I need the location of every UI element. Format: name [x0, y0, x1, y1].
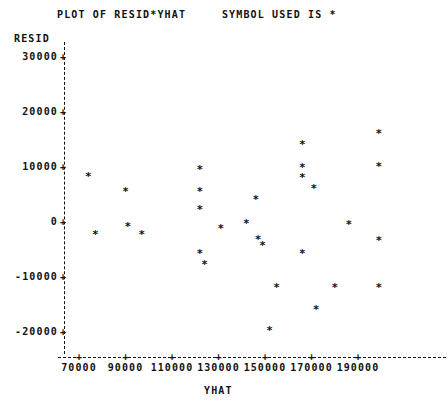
y-tick-mark: +	[60, 52, 66, 62]
data-point: *	[376, 234, 383, 245]
data-point: *	[252, 193, 259, 204]
x-tick-label: 110000	[151, 363, 194, 373]
data-point: *	[376, 160, 383, 171]
x-tick-mark: +	[76, 352, 82, 362]
y-tick-mark: +	[60, 107, 66, 117]
x-tick-label: 70000	[61, 363, 97, 373]
data-point: *	[313, 303, 320, 314]
data-point: *	[376, 127, 383, 138]
data-point: *	[259, 240, 266, 251]
y-tick-label: 30000	[2, 52, 58, 62]
x-tick-mark: +	[215, 352, 221, 362]
data-point: *	[197, 164, 204, 175]
y-tick-mark: +	[60, 217, 66, 227]
y-tick-mark: +	[60, 162, 66, 172]
y-tick-label: -10000	[2, 272, 58, 282]
data-point: *	[92, 229, 99, 240]
x-axis-title: YHAT	[204, 385, 233, 396]
data-point: *	[125, 221, 132, 232]
data-point: *	[299, 138, 306, 149]
x-tick-label: 170000	[290, 363, 333, 373]
y-tick-mark: +	[60, 327, 66, 337]
data-point: *	[331, 281, 338, 292]
x-tick-label: 90000	[108, 363, 144, 373]
y-tick-mark: +	[60, 272, 66, 282]
data-point: *	[299, 171, 306, 182]
data-point: *	[218, 222, 225, 233]
x-tick-mark: +	[169, 352, 175, 362]
data-point: *	[85, 170, 92, 181]
data-point: *	[311, 182, 318, 193]
x-tick-mark: +	[122, 352, 128, 362]
page-title: PLOT OF RESID*YHAT SYMBOL USED IS *	[57, 9, 337, 20]
data-point: *	[243, 218, 250, 229]
data-point: *	[201, 258, 208, 269]
scatter-plot: PLOT OF RESID*YHAT SYMBOL USED IS * RESI…	[0, 0, 448, 409]
data-point: *	[273, 281, 280, 292]
data-point: *	[138, 229, 145, 240]
data-point: *	[197, 186, 204, 197]
x-tick-mark: +	[308, 352, 314, 362]
x-tick-mark: +	[262, 352, 268, 362]
y-tick-label: 0	[2, 217, 58, 227]
data-point: *	[122, 186, 129, 197]
data-point: *	[299, 247, 306, 258]
y-tick-label: 10000	[2, 162, 58, 172]
x-axis-line	[58, 357, 446, 358]
data-point: *	[376, 281, 383, 292]
y-axis-line	[64, 42, 65, 354]
y-axis-title: RESID	[14, 33, 50, 44]
y-tick-label: 20000	[2, 107, 58, 117]
x-tick-label: 130000	[197, 363, 240, 373]
x-tick-label: 190000	[337, 363, 380, 373]
data-point: *	[197, 203, 204, 214]
y-tick-label: -20000	[2, 327, 58, 337]
data-point: *	[345, 219, 352, 230]
data-point: *	[266, 324, 273, 335]
x-tick-label: 150000	[244, 363, 287, 373]
x-tick-mark: +	[355, 352, 361, 362]
